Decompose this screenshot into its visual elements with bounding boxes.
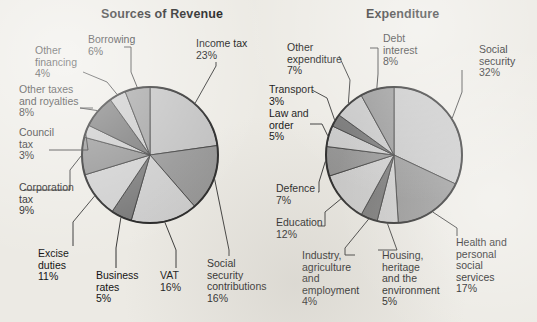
leader-debt-interest [370, 48, 378, 88]
label-health-and-personal-social-services: Health and personal social services 17% [456, 237, 507, 295]
leader-other-taxes-and-royalties [80, 108, 97, 111]
revenue-pie-slice-income-tax[interactable] [150, 87, 217, 155]
leader-excise-duties [73, 196, 95, 246]
label-housing-heritage-environment: Housing, heritage and the environment 5% [382, 250, 440, 308]
chart-title-sources-of-revenue: Sources of Revenue [101, 7, 223, 21]
leader-vat [165, 222, 176, 268]
label-corporation-tax: Corporation tax 9% [19, 182, 74, 217]
label-debt-interest: Debt interest 8% [383, 33, 417, 68]
label-income-tax: Income tax 23% [196, 38, 247, 61]
expenditure-pie-slices [326, 87, 462, 223]
leader-income-tax [195, 62, 216, 103]
label-borrowing: Borrowing 6% [88, 34, 135, 57]
label-transport: Transport 3% [269, 84, 314, 107]
label-social-security-contributions: Social security contributions 16% [207, 258, 267, 304]
label-defence: Defence 7% [276, 183, 315, 206]
leader-other-financing [83, 72, 117, 94]
leader-defence [318, 161, 325, 192]
leader-law-and-order [310, 124, 328, 136]
label-law-and-order: Law and order 5% [269, 108, 309, 143]
leader-business-rates [116, 218, 121, 268]
label-social-security: Social security 32% [479, 44, 515, 79]
leader-housing [378, 224, 397, 250]
leader-transport [312, 90, 335, 120]
label-other-taxes-and-royalties: Other taxes and royalties 8% [19, 84, 79, 119]
chart-title-expenditure: Expenditure [366, 7, 439, 21]
leader-social-security-contributions [215, 179, 229, 256]
pie-charts-figure: Sources of Revenue Expenditure Income ta… [0, 0, 537, 322]
leader-social-security [452, 70, 462, 118]
label-other-expenditure: Other expenditure 7% [287, 42, 342, 77]
label-council-tax: Council tax 3% [19, 127, 54, 162]
label-other-financing: Other financing 4% [35, 45, 77, 80]
leader-health [433, 212, 457, 236]
revenue-pie-slices [82, 87, 218, 223]
label-education: Education 12% [276, 217, 323, 240]
label-business-rates: Business rates 5% [96, 270, 139, 305]
label-excise-duties: Excise duties 11% [38, 248, 69, 283]
label-industry-agriculture-employment: Industry, agriculture and employment 4% [302, 250, 359, 308]
label-vat: VAT 16% [160, 270, 181, 293]
